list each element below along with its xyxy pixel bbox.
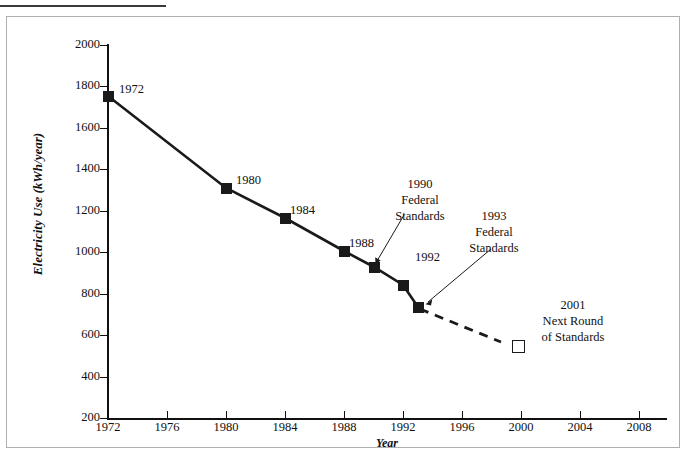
y-tick-1000 (100, 252, 107, 253)
y-tick-800 (100, 294, 107, 295)
x-tick-1984 (285, 411, 286, 418)
y-tick-1400 (100, 169, 107, 170)
point-label-1992: 1992 (415, 251, 440, 264)
data-point-1992[interactable] (398, 280, 409, 291)
data-point-1990[interactable] (369, 262, 380, 273)
x-tick-label-2000: 2000 (491, 421, 551, 434)
x-tick-2000 (521, 411, 522, 418)
annotation-1993-federal-standards: 1993 Federal Standards (452, 208, 536, 256)
y-tick-2000 (100, 45, 107, 46)
annotation-2001-line-3: of Standards (527, 329, 619, 345)
point-label-1988: 1988 (349, 237, 374, 250)
x-tick-label-2008: 2008 (609, 421, 669, 434)
data-point-1993[interactable] (413, 302, 424, 313)
y-tick-label-400: 400 (54, 370, 100, 383)
x-tick-label-2004: 2004 (550, 421, 610, 434)
y-tick-400 (100, 377, 107, 378)
point-label-1980: 1980 (236, 174, 261, 187)
y-tick-600 (100, 335, 107, 336)
x-tick-label-1972: 1972 (78, 421, 138, 434)
y-tick-200 (100, 418, 107, 419)
y-tick-label-600: 600 (54, 328, 100, 341)
y-tick-label-1800: 1800 (54, 79, 100, 92)
x-tick-label-1976: 1976 (137, 421, 197, 434)
annotation-1990-federal-standards: 1990 Federal Standards (378, 176, 462, 224)
data-point-1984[interactable] (280, 213, 291, 224)
series-overlay (0, 0, 687, 462)
y-tick-1200 (100, 211, 107, 212)
x-tick-1972 (108, 411, 109, 418)
annotation-2001-next-round: 2001 Next Round of Standards (527, 297, 619, 345)
chart-page: 2000 1800 1600 1400 1200 1000 800 600 40… (0, 0, 687, 462)
x-tick-label-1980: 1980 (196, 421, 256, 434)
x-tick-1996 (462, 411, 463, 418)
annotation-2001-line-1: 2001 (527, 297, 619, 313)
x-tick-1992 (403, 411, 404, 418)
projection-dashed-line (420, 309, 501, 342)
y-tick-label-1000: 1000 (54, 245, 100, 258)
leader-arrow-1993 (426, 299, 433, 305)
x-tick-label-1988: 1988 (314, 421, 374, 434)
x-tick-label-1992: 1992 (373, 421, 433, 434)
x-tick-1976 (167, 411, 168, 418)
y-tick-label-1600: 1600 (54, 121, 100, 134)
data-point-1972[interactable] (103, 91, 114, 102)
y-tick-label-1200: 1200 (54, 204, 100, 217)
y-tick-label-800: 800 (54, 287, 100, 300)
annotation-1990-line-2: Federal (378, 192, 462, 208)
y-tick-1600 (100, 128, 107, 129)
historical-line (108, 96, 418, 307)
x-tick-1980 (226, 411, 227, 418)
x-tick-label-1996: 1996 (432, 421, 492, 434)
x-tick-2004 (580, 411, 581, 418)
x-axis-title: Year (107, 436, 667, 451)
annotation-1993-line-1: 1993 (452, 208, 536, 224)
x-tick-label-1984: 1984 (255, 421, 315, 434)
annotation-1990-line-1: 1990 (378, 176, 462, 192)
data-point-1980[interactable] (221, 183, 232, 194)
y-tick-1800 (100, 86, 107, 87)
plot-area: 2000 1800 1600 1400 1200 1000 800 600 40… (0, 0, 687, 462)
point-label-1972: 1972 (119, 83, 144, 96)
point-label-1984: 1984 (290, 204, 315, 217)
annotation-1993-line-3: Standards (452, 240, 536, 256)
x-tick-2008 (639, 411, 640, 418)
y-tick-label-1400: 1400 (54, 162, 100, 175)
x-tick-1988 (344, 411, 345, 418)
annotation-1990-line-3: Standards (378, 208, 462, 224)
data-point-2001-open[interactable] (512, 340, 525, 353)
y-axis-title: Electricity Use (kWh/year) (30, 84, 46, 324)
y-tick-label-2000: 2000 (54, 38, 100, 51)
data-point-1988[interactable] (339, 246, 350, 257)
annotation-2001-line-2: Next Round (527, 313, 619, 329)
annotation-1993-line-2: Federal (452, 224, 536, 240)
